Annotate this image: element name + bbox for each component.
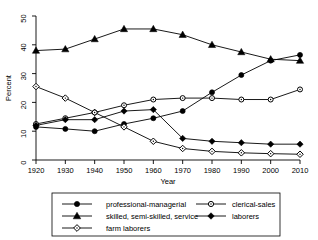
data-point-open-circle (151, 97, 156, 102)
open-diamond-center (35, 86, 36, 87)
filled-circle-marker (151, 116, 156, 121)
open-diamond-center (153, 141, 154, 142)
data-point-open-circle (298, 87, 303, 92)
open-diamond-center (182, 148, 183, 149)
x-tick-label: 1990 (233, 166, 250, 175)
open-circle-center (241, 99, 242, 100)
y-axis-label: Percent (4, 74, 13, 101)
filled-circle-marker (92, 129, 97, 134)
legend-label: farm laborers (106, 224, 150, 233)
filled-circle-marker (180, 109, 185, 114)
y-tick-label: 10 (19, 130, 28, 138)
data-point-filled-circle (63, 126, 68, 131)
filled-circle-marker (63, 126, 68, 131)
open-diamond-center (299, 154, 300, 155)
filled-circle-marker (239, 73, 244, 78)
data-point-filled-circle (92, 129, 97, 134)
open-diamond-center (76, 227, 77, 228)
legend-label: laborers (232, 212, 259, 221)
y-tick-label: 30 (19, 72, 28, 80)
open-diamond-center (123, 126, 124, 127)
data-point-filled-circle (151, 116, 156, 121)
x-tick-label: 1930 (57, 166, 74, 175)
y-tick-label: 40 (19, 43, 28, 51)
open-circle-center (211, 97, 212, 98)
x-tick-label: 1920 (28, 166, 45, 175)
open-circle-center (123, 105, 124, 106)
chart-screenshot: 01020304050 1920193019401950196019701980… (0, 0, 318, 240)
data-point-filled-circle (180, 109, 185, 114)
occupation-share-line-chart: 01020304050 1920193019401950196019701980… (0, 0, 318, 240)
legend-label: skilled, semi-skilled, service (106, 212, 198, 221)
open-diamond-center (65, 97, 66, 98)
data-point-filled-circle (239, 73, 244, 78)
open-circle-center (270, 99, 271, 100)
open-diamond-center (241, 152, 242, 153)
open-diamond-center (211, 151, 212, 152)
data-point-open-circle (122, 103, 127, 108)
open-circle-center (210, 203, 211, 204)
data-point-open-circle (239, 97, 244, 102)
x-tick-label: 2010 (292, 166, 309, 175)
x-tick-label: 1970 (174, 166, 191, 175)
x-tick-label: 1940 (86, 166, 103, 175)
legend-label: professional-managerial (106, 200, 186, 209)
open-circle-center (153, 99, 154, 100)
y-tick-label: 50 (19, 14, 28, 22)
open-circle-center (299, 89, 300, 90)
legend-label: clerical-sales (232, 200, 276, 209)
data-point-open-circle (210, 96, 215, 101)
y-tick-label: 20 (19, 101, 28, 109)
filled-circle-marker (210, 90, 215, 95)
open-circle-center (182, 97, 183, 98)
open-circle-center (94, 112, 95, 113)
x-tick-label: 1960 (145, 166, 162, 175)
data-point-open-circle (208, 201, 213, 206)
x-tick-label: 1980 (204, 166, 221, 175)
data-point-open-circle (92, 110, 97, 115)
y-tick-label: 0 (19, 161, 28, 165)
open-diamond-center (270, 153, 271, 154)
data-point-open-circle (180, 96, 185, 101)
data-point-filled-circle (210, 90, 215, 95)
x-tick-label: 2000 (262, 166, 279, 175)
data-point-filled-circle (74, 201, 79, 206)
filled-circle-marker (74, 201, 79, 206)
x-tick-label: 1950 (116, 166, 133, 175)
x-axis-label: Year (160, 177, 176, 186)
data-point-open-circle (268, 97, 273, 102)
